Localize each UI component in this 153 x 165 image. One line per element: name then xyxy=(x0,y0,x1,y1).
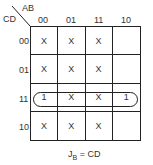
col-header: 11 xyxy=(94,15,103,25)
row-header: 00 xyxy=(19,36,29,46)
col-header: 10 xyxy=(121,15,131,25)
karnaugh-map-grid: X X X X X X 1 X X 1 X X X xyxy=(30,26,141,141)
kmap-cell: X xyxy=(31,27,58,55)
kmap-cell: X xyxy=(58,27,85,55)
row-header: 01 xyxy=(19,65,29,75)
equation: JB = CD xyxy=(68,149,100,161)
grouping-loop xyxy=(33,92,138,107)
kmap-cell: X xyxy=(58,55,85,83)
row-header: 11 xyxy=(19,94,28,104)
col-header: 01 xyxy=(66,15,76,25)
row-header: 10 xyxy=(19,122,29,132)
kmap-cell xyxy=(113,55,140,83)
equation-rhs: = CD xyxy=(80,149,101,159)
equation-subscript: B xyxy=(73,154,78,161)
kmap-cell: X xyxy=(86,55,113,83)
row-variable-label: CD xyxy=(3,14,16,24)
kmap-cell xyxy=(113,112,140,140)
kmap-cell: X xyxy=(31,112,58,140)
kmap-cell xyxy=(113,27,140,55)
kmap-cell: X xyxy=(58,112,85,140)
col-header: 00 xyxy=(38,15,48,25)
kmap-cell: X xyxy=(86,112,113,140)
kmap-cell: X xyxy=(31,55,58,83)
col-variable-label: AB xyxy=(22,3,34,13)
kmap-cell: X xyxy=(86,27,113,55)
